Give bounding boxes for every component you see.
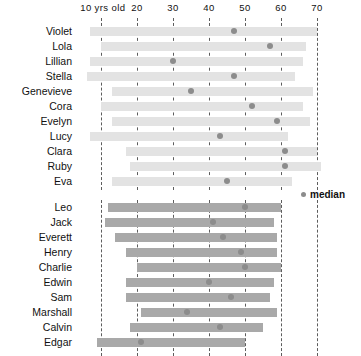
median-dot-icon bbox=[224, 178, 230, 184]
median-dot-icon bbox=[210, 219, 216, 225]
row-label: Cora bbox=[0, 99, 72, 114]
row-label: Stella bbox=[0, 69, 72, 84]
chart-row: Violet bbox=[0, 24, 361, 39]
median-dot-icon bbox=[242, 264, 248, 270]
median-dot-icon bbox=[231, 28, 237, 34]
row-label: Ruby bbox=[0, 159, 72, 174]
median-dot-icon bbox=[217, 324, 223, 330]
range-bar bbox=[137, 263, 281, 272]
row-label: Jack bbox=[0, 215, 72, 230]
range-bar bbox=[87, 72, 296, 81]
median-dot-icon bbox=[267, 43, 273, 49]
row-label: Henry bbox=[0, 245, 72, 260]
range-bar bbox=[130, 162, 321, 171]
chart-row: Eva bbox=[0, 174, 361, 189]
row-label: Evelyn bbox=[0, 114, 72, 129]
median-dot-icon bbox=[282, 163, 288, 169]
chart-row: Evelyn bbox=[0, 114, 361, 129]
median-dot-icon bbox=[249, 103, 255, 109]
chart-row: Stella bbox=[0, 69, 361, 84]
range-bar bbox=[141, 308, 278, 317]
chart-row: Calvin bbox=[0, 320, 361, 335]
chart-row: Genevieve bbox=[0, 84, 361, 99]
range-bar bbox=[130, 323, 263, 332]
range-bar bbox=[105, 218, 274, 227]
range-bar bbox=[115, 233, 277, 242]
x-axis-tick-label: 20 bbox=[131, 2, 142, 13]
legend-median: median bbox=[301, 188, 345, 200]
range-bar bbox=[126, 147, 317, 156]
row-label: Lucy bbox=[0, 129, 72, 144]
range-bar bbox=[112, 87, 314, 96]
row-label: Marshall bbox=[0, 305, 72, 320]
chart-row: Clara bbox=[0, 144, 361, 159]
x-axis-tick-label: 70 bbox=[311, 2, 322, 13]
row-label: Eva bbox=[0, 174, 72, 189]
chart-row: Ruby bbox=[0, 159, 361, 174]
x-axis-tick-label: 40 bbox=[203, 2, 214, 13]
x-axis-tick-label: 50 bbox=[239, 2, 250, 13]
row-label: Sam bbox=[0, 290, 72, 305]
chart-row: Lillian bbox=[0, 54, 361, 69]
median-dot-icon bbox=[282, 148, 288, 154]
median-dot-icon bbox=[274, 118, 280, 124]
chart-row: Lola bbox=[0, 39, 361, 54]
chart-panel-group-2: LeoJackEverettHenryCharlieEdwinSamMarsha… bbox=[0, 200, 361, 356]
chart-row: Charlie bbox=[0, 260, 361, 275]
x-axis-labels: 10 yrs old203040506070 bbox=[0, 0, 361, 16]
range-bar bbox=[97, 338, 245, 347]
median-dot-icon bbox=[206, 279, 212, 285]
median-dot-icon bbox=[188, 88, 194, 94]
chart-row: Cora bbox=[0, 99, 361, 114]
row-label: Charlie bbox=[0, 260, 72, 275]
row-label: Lillian bbox=[0, 54, 72, 69]
chart-row: Everett bbox=[0, 230, 361, 245]
chart-row: Henry bbox=[0, 245, 361, 260]
x-axis-tick-label: 60 bbox=[275, 2, 286, 13]
median-dot-icon bbox=[184, 309, 190, 315]
range-bar bbox=[101, 42, 306, 51]
range-bar bbox=[108, 203, 281, 212]
chart-row: Marshall bbox=[0, 305, 361, 320]
median-dot-icon bbox=[170, 58, 176, 64]
chart-row: Lucy bbox=[0, 129, 361, 144]
range-bar bbox=[101, 102, 303, 111]
row-label: Genevieve bbox=[0, 84, 72, 99]
range-bar bbox=[112, 177, 292, 186]
range-bar bbox=[126, 248, 277, 257]
row-label: Lola bbox=[0, 39, 72, 54]
row-label: Edwin bbox=[0, 275, 72, 290]
chart-row: Leo bbox=[0, 200, 361, 215]
row-label: Calvin bbox=[0, 320, 72, 335]
row-label: Leo bbox=[0, 200, 72, 215]
range-bar bbox=[90, 57, 302, 66]
range-bar bbox=[126, 293, 270, 302]
median-dot-icon bbox=[228, 294, 234, 300]
x-axis-tick-label: 30 bbox=[167, 2, 178, 13]
range-bar bbox=[112, 117, 310, 126]
chart-row: Edwin bbox=[0, 275, 361, 290]
median-dot-icon bbox=[238, 249, 244, 255]
median-dot-icon bbox=[242, 204, 248, 210]
row-label: Violet bbox=[0, 24, 72, 39]
median-dot-icon bbox=[220, 234, 226, 240]
range-bar bbox=[90, 132, 288, 141]
median-dot-icon bbox=[138, 339, 144, 345]
x-axis-tick-label: 10 yrs old bbox=[80, 2, 125, 13]
row-label: Edgar bbox=[0, 335, 72, 350]
row-label: Clara bbox=[0, 144, 72, 159]
row-label: Everett bbox=[0, 230, 72, 245]
median-dot-icon bbox=[301, 192, 306, 197]
chart-row: Jack bbox=[0, 215, 361, 230]
legend-label: median bbox=[310, 189, 345, 200]
median-dot-icon bbox=[217, 133, 223, 139]
range-bar bbox=[90, 27, 317, 36]
range-bar bbox=[126, 278, 274, 287]
age-range-chart: 10 yrs old203040506070 VioletLolaLillian… bbox=[0, 0, 361, 356]
chart-row: Edgar bbox=[0, 335, 361, 350]
median-dot-icon bbox=[231, 73, 237, 79]
chart-row: Sam bbox=[0, 290, 361, 305]
chart-panel-group-1: VioletLolaLillianStellaGenevieveCoraEvel… bbox=[0, 24, 361, 192]
